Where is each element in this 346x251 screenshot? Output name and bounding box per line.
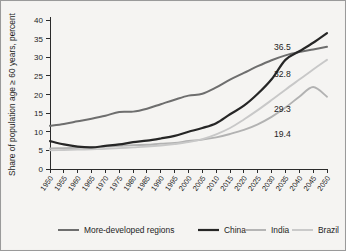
axis-lines bbox=[50, 17, 327, 169]
y-tick-label: 35 bbox=[34, 35, 43, 44]
y-tick-label: 10 bbox=[34, 128, 43, 137]
data-label-32-8: 32.8 bbox=[274, 69, 291, 79]
x-axis-ticks: 1950195519601965197019751980198519901995… bbox=[38, 169, 332, 193]
x-tick-label: 1970 bbox=[94, 174, 111, 193]
x-tick-label: 2000 bbox=[177, 174, 194, 193]
x-tick-label: 2045 bbox=[301, 174, 318, 193]
x-tick-label: 2010 bbox=[205, 174, 222, 193]
y-tick-label: 40 bbox=[34, 16, 43, 25]
data-label-19-4: 19.4 bbox=[274, 129, 291, 139]
y-tick-label: 30 bbox=[34, 53, 43, 62]
x-tick-label: 1975 bbox=[108, 174, 125, 193]
x-tick-label: 2030 bbox=[260, 174, 277, 193]
x-tick-label: 2035 bbox=[274, 174, 291, 193]
x-tick-label: 2025 bbox=[246, 174, 263, 193]
x-tick-label: 1955 bbox=[52, 174, 69, 193]
y-tick-label: 0 bbox=[39, 165, 44, 174]
x-tick-label: 1990 bbox=[149, 174, 166, 193]
y-tick-label: 15 bbox=[34, 109, 43, 118]
figure-canvas: Share of population age ≥ 60 years, perc… bbox=[2, 2, 344, 249]
x-tick-label: 2005 bbox=[191, 174, 208, 193]
x-tick-label: 2015 bbox=[218, 174, 235, 193]
y-tick-label: 25 bbox=[34, 72, 43, 81]
y-tick-label: 5 bbox=[39, 146, 44, 155]
y-axis-ticks: 0510152025303540 bbox=[34, 16, 50, 174]
x-tick-label: 2050 bbox=[315, 174, 332, 193]
x-tick-label: 2040 bbox=[288, 174, 305, 193]
x-tick-label: 1980 bbox=[121, 174, 138, 193]
x-tick-label: 1995 bbox=[163, 174, 180, 193]
legend-label-more-developed-regions: More-developed regions bbox=[84, 225, 174, 235]
chart-legend: More-developed regionsChinaIndiaBrazil bbox=[58, 225, 339, 235]
y-tick-label: 20 bbox=[34, 91, 43, 100]
figure-frame: Share of population age ≥ 60 years, perc… bbox=[0, 0, 346, 251]
line-chart: Share of population age ≥ 60 years, perc… bbox=[2, 2, 346, 251]
y-axis-label: Share of population age ≥ 60 years, perc… bbox=[7, 12, 17, 176]
legend-label-china: China bbox=[224, 225, 246, 235]
x-tick-label: 1965 bbox=[80, 174, 97, 193]
x-tick-label: 1985 bbox=[135, 174, 152, 193]
legend-label-india: India bbox=[271, 225, 290, 235]
y-axis-label-text: Share of population age ≥ 60 years, perc… bbox=[7, 12, 17, 176]
data-label-29-3: 29.3 bbox=[274, 104, 291, 114]
legend-label-brazil: Brazil bbox=[318, 225, 339, 235]
x-tick-label: 1950 bbox=[38, 174, 55, 193]
x-tick-label: 1960 bbox=[66, 174, 83, 193]
x-tick-label: 2020 bbox=[232, 174, 249, 193]
data-label-36-5: 36.5 bbox=[274, 42, 291, 52]
